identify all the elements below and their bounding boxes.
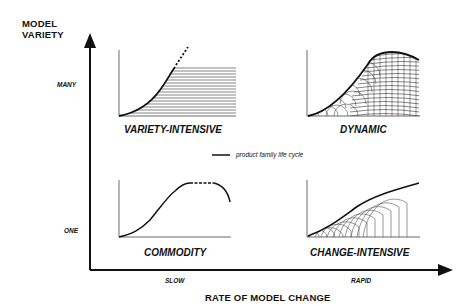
legend-label: product family life cycle: [236, 151, 303, 158]
y-axis-title: MODEL VARIETY: [22, 18, 64, 40]
x-axis: [90, 264, 453, 276]
x-tick-slow: SLOW: [165, 277, 185, 284]
x-axis-arrow-icon: [438, 264, 453, 276]
panel-label-dynamic: DYNAMIC: [340, 124, 387, 135]
x-axis-title: RATE OF MODEL CHANGE: [205, 292, 331, 303]
y-axis-title-line1: MODEL: [22, 18, 64, 29]
y-axis: [84, 33, 96, 270]
panel-dynamic-plot: [307, 50, 442, 116]
panel-label-variety-intensive: VARIETY-INTENSIVE: [124, 124, 222, 135]
panel-label-change-intensive: CHANGE-INTENSIVE: [310, 247, 409, 258]
y-axis-arrow-icon: [84, 33, 96, 48]
panel-label-commodity: COMMODITY: [144, 247, 206, 258]
y-axis-title-line2: VARIETY: [22, 29, 64, 40]
panel-change-intensive-plot: [307, 180, 420, 237]
panel-commodity-plot: [119, 180, 231, 237]
x-tick-rapid: RAPID: [351, 277, 371, 284]
panel-variety-intensive-plot: [119, 47, 236, 116]
y-tick-many: MANY: [57, 81, 76, 88]
y-tick-one: ONE: [64, 227, 78, 234]
